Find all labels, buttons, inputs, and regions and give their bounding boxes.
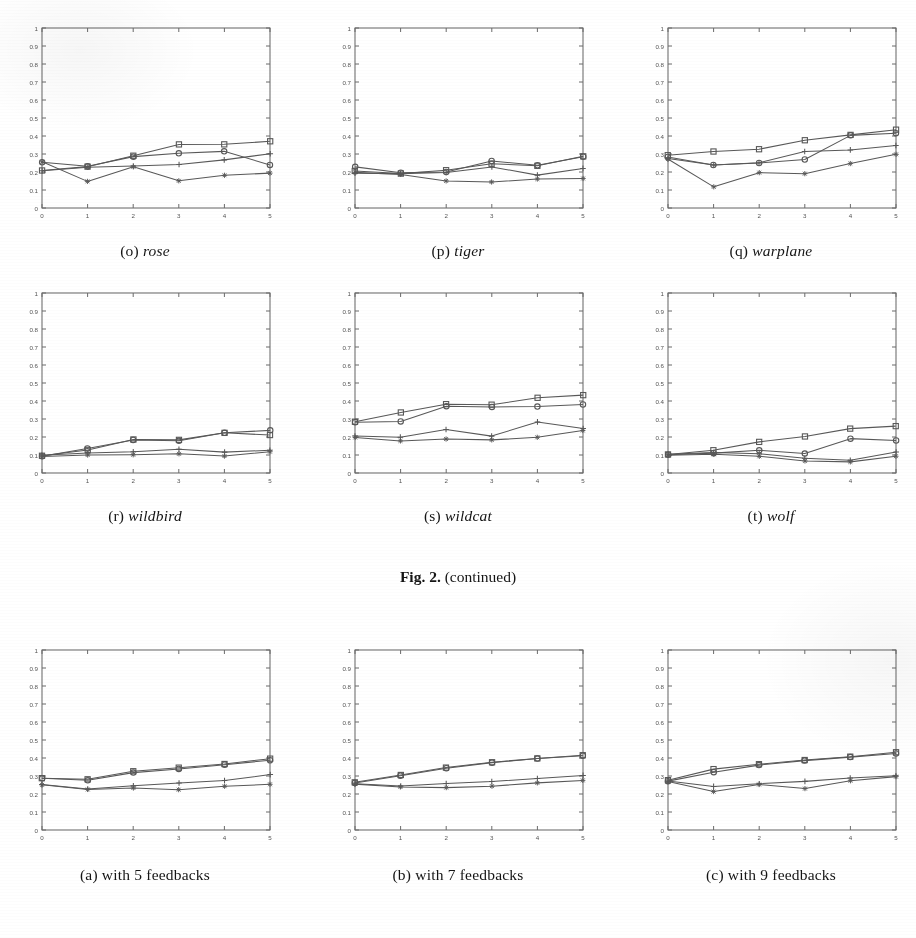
series-line-series-2	[42, 760, 270, 780]
plot-area-b: 00.10.20.30.40.50.60.70.80.91012345	[327, 640, 589, 852]
y-tick-label: 0	[348, 827, 352, 834]
y-tick-label: 1	[661, 25, 665, 32]
y-tick-label: 0.2	[655, 169, 664, 176]
y-tick-label: 0.3	[655, 773, 664, 780]
series-line-series-1	[668, 426, 896, 454]
caption-prefix: (a)	[80, 866, 98, 883]
y-tick-label: 1	[661, 290, 665, 297]
x-tick-label: 3	[803, 477, 807, 484]
x-tick-label: 1	[86, 212, 90, 219]
y-tick-label: 0.7	[342, 701, 351, 708]
figure-row-2: 00.10.20.30.40.50.60.70.80.91012345(r) w…	[0, 283, 916, 525]
series-line-series-4	[355, 780, 583, 787]
y-tick-label: 0.8	[342, 326, 351, 333]
y-tick-label: 0.3	[29, 773, 38, 780]
x-tick-label: 2	[131, 212, 135, 219]
y-tick-label: 0.7	[655, 344, 664, 351]
y-tick-label: 0.3	[655, 416, 664, 423]
x-tick-label: 1	[712, 834, 716, 841]
x-tick-label: 1	[399, 212, 403, 219]
panel-caption-b: (b) with 7 feedbacks	[327, 866, 589, 884]
y-tick-label: 0.8	[655, 683, 664, 690]
series-line-series-2	[355, 405, 583, 423]
y-tick-label: 0.5	[655, 380, 664, 387]
y-tick-label: 0.9	[342, 665, 351, 672]
panel-caption-a: (a) with 5 feedbacks	[14, 866, 276, 884]
x-tick-label: 2	[131, 834, 135, 841]
plot-area-a: 00.10.20.30.40.50.60.70.80.91012345	[14, 640, 276, 852]
y-tick-label: 0	[35, 827, 39, 834]
panel-caption-o: (o) rose	[14, 242, 276, 260]
x-tick-label: 2	[444, 477, 448, 484]
y-tick-label: 0.6	[342, 97, 351, 104]
x-tick-label: 0	[40, 834, 44, 841]
figure-2-label-bold: Fig. 2.	[400, 568, 441, 585]
plot-frame	[668, 28, 896, 208]
y-tick-label: 0.4	[342, 398, 351, 405]
caption-prefix: (c)	[706, 866, 724, 883]
y-tick-label: 1	[35, 25, 39, 32]
y-tick-label: 0.4	[655, 133, 664, 140]
plot-area-c: 00.10.20.30.40.50.60.70.80.91012345	[640, 640, 902, 852]
plot-area-q: 00.10.20.30.40.50.60.70.80.91012345	[640, 18, 902, 230]
caption-name: wildbird	[128, 507, 182, 524]
y-tick-label: 0.8	[29, 683, 38, 690]
series-line-series-2	[355, 157, 583, 173]
x-tick-label: 5	[894, 834, 898, 841]
panel-c: 00.10.20.30.40.50.60.70.80.91012345(c) w…	[640, 640, 902, 884]
series-line-series-3	[668, 146, 896, 165]
x-tick-label: 1	[712, 212, 716, 219]
plot-t: 00.10.20.30.40.50.60.70.80.91012345	[640, 283, 902, 495]
x-tick-label: 2	[757, 477, 761, 484]
y-tick-label: 0.7	[655, 79, 664, 86]
panel-s: 00.10.20.30.40.50.60.70.80.91012345(s) w…	[327, 283, 589, 525]
plot-p: 00.10.20.30.40.50.60.70.80.91012345	[327, 18, 589, 230]
y-tick-label: 0.1	[342, 809, 351, 816]
x-tick-label: 5	[894, 212, 898, 219]
series-line-series-4	[355, 431, 583, 441]
plot-area-s: 00.10.20.30.40.50.60.70.80.91012345	[327, 283, 589, 495]
y-tick-label: 0.5	[29, 737, 38, 744]
y-tick-label: 0.3	[29, 151, 38, 158]
plot-frame	[355, 650, 583, 830]
series-line-series-4	[42, 784, 270, 789]
caption-prefix: (s)	[424, 507, 441, 524]
x-tick-label: 4	[536, 477, 540, 484]
y-tick-label: 0	[348, 470, 352, 477]
y-tick-label: 0.9	[655, 308, 664, 315]
x-tick-label: 5	[268, 212, 272, 219]
y-tick-label: 0	[348, 205, 352, 212]
y-tick-label: 0.8	[655, 326, 664, 333]
panel-b: 00.10.20.30.40.50.60.70.80.91012345(b) w…	[327, 640, 589, 884]
plot-frame	[668, 650, 896, 830]
x-tick-label: 3	[803, 212, 807, 219]
panel-caption-t: (t) wolf	[640, 507, 902, 525]
x-tick-label: 4	[849, 212, 853, 219]
series-line-series-3	[668, 776, 896, 787]
plot-area-p: 00.10.20.30.40.50.60.70.80.91012345	[327, 18, 589, 230]
x-tick-label: 1	[712, 477, 716, 484]
series-line-series-1	[668, 130, 896, 156]
y-tick-label: 0.5	[29, 380, 38, 387]
plot-q: 00.10.20.30.40.50.60.70.80.91012345	[640, 18, 902, 230]
y-tick-label: 0.5	[655, 115, 664, 122]
y-tick-label: 0.2	[655, 791, 664, 798]
x-tick-label: 3	[177, 212, 181, 219]
y-tick-label: 0.5	[29, 115, 38, 122]
y-tick-label: 0.1	[655, 452, 664, 459]
y-tick-label: 0.8	[29, 61, 38, 68]
series-line-series-2	[355, 756, 583, 783]
x-tick-label: 2	[444, 834, 448, 841]
x-tick-label: 5	[268, 834, 272, 841]
y-tick-label: 0.6	[29, 97, 38, 104]
x-tick-label: 4	[223, 834, 227, 841]
caption-name: with 5 feedbacks	[102, 866, 210, 883]
y-tick-label: 0.6	[29, 719, 38, 726]
y-tick-label: 0.5	[655, 737, 664, 744]
series-line-series-2	[42, 430, 270, 456]
y-tick-label: 0.9	[29, 665, 38, 672]
x-tick-label: 1	[86, 834, 90, 841]
y-tick-label: 0.8	[342, 61, 351, 68]
caption-prefix: (p)	[431, 242, 450, 259]
x-tick-label: 2	[131, 477, 135, 484]
